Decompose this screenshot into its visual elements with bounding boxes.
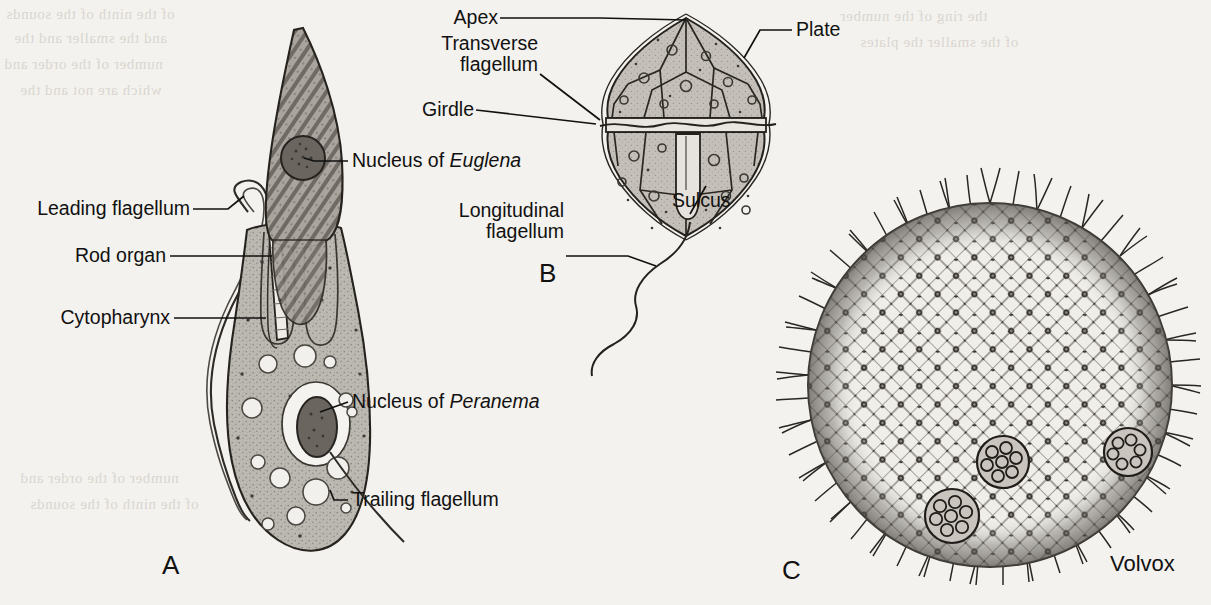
label-cytopharynx: Cytopharynx (0, 307, 170, 328)
label-trailing-flagellum: Trailing flagellum (352, 489, 499, 510)
label-volvox: Volvox (1110, 551, 1175, 577)
label-nucleus-of-peranema-genus: Peranema (450, 390, 540, 412)
label-rod-organ: Rod organ (0, 245, 166, 266)
label-longitudinal-flagellum-line2: flagellum (400, 221, 564, 242)
leader-plate (744, 30, 792, 58)
label-apex: Apex (380, 7, 498, 28)
figure-artwork (0, 0, 1211, 605)
daughter-colony (925, 489, 979, 543)
peranema-nucleus (297, 397, 337, 457)
label-transverse-flagellum-line1: Transverse (380, 33, 538, 54)
label-girdle: Girdle (380, 99, 474, 120)
volvox-sphere-shading (808, 203, 1172, 567)
label-leading-flagellum: Leading flagellum (0, 198, 190, 219)
label-sulcus: Sulcus (672, 190, 731, 211)
label-nucleus-of-peranema: Nucleus of Peranema (352, 391, 540, 412)
label-transverse-flagellum: Transverse flagellum (380, 33, 538, 75)
label-nucleus-of-euglena-prefix: Nucleus of (352, 149, 450, 171)
daughter-colony (1104, 428, 1152, 476)
label-nucleus-of-peranema-prefix: Nucleus of (352, 390, 450, 412)
panel-letter-c: C (782, 555, 801, 586)
leader-apex (500, 18, 686, 20)
leader-transverse-flagellum (540, 74, 600, 120)
longitudinal-flagellum (592, 222, 690, 376)
label-nucleus-of-euglena-genus: Euglena (450, 149, 522, 171)
leader-girdle (476, 110, 596, 124)
panel-c-artwork (776, 168, 1201, 585)
panel-letter-a: A (162, 550, 179, 581)
panel-letter-b: B (539, 258, 556, 289)
label-plate: Plate (796, 19, 840, 40)
label-longitudinal-flagellum-line1: Longitudinal (400, 200, 564, 221)
leader-leading-flagellum (193, 196, 244, 209)
leader-longitudinal-flagellum (566, 256, 656, 266)
label-longitudinal-flagellum: Longitudinal flagellum (400, 200, 564, 242)
label-nucleus-of-euglena: Nucleus of Euglena (352, 150, 521, 171)
daughter-colony (977, 436, 1029, 488)
figure-page: of the ninth of the sounds and the small… (0, 0, 1211, 605)
label-transverse-flagellum-line2: flagellum (380, 54, 538, 75)
panel-a-artwork (170, 28, 404, 551)
